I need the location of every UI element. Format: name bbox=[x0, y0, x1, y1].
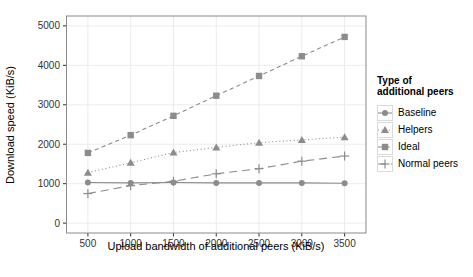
legend-item-label: Ideal bbox=[398, 141, 420, 152]
legend-item-normal-peers: Normal peers bbox=[377, 155, 458, 172]
legend-title: Type of additional peers bbox=[377, 75, 458, 97]
y-tick-label: 0 bbox=[54, 218, 60, 229]
y-tick-label: 1000 bbox=[38, 178, 61, 189]
legend-key-plus-icon bbox=[377, 156, 393, 172]
x-axis-label: Upload bandwidth of additional peers (Ki… bbox=[66, 240, 366, 252]
y-tick-label: 2000 bbox=[38, 139, 61, 150]
y-tick-label: 3000 bbox=[38, 99, 61, 110]
legend-item-helpers: Helpers bbox=[377, 121, 458, 138]
y-axis-label: Download speed (KiB/s) bbox=[3, 16, 17, 233]
y-tick-label: 4000 bbox=[38, 60, 61, 71]
legend-key-square-icon bbox=[377, 139, 393, 155]
legend-title-line2: additional peers bbox=[377, 86, 458, 97]
legend: Type of additional peers BaselineHelpers… bbox=[377, 75, 458, 172]
legend-item-label: Helpers bbox=[398, 124, 432, 135]
legend-item-baseline: Baseline bbox=[377, 104, 458, 121]
legend-key-circle-icon bbox=[377, 105, 393, 121]
legend-key-triangle-icon bbox=[377, 122, 393, 138]
legend-item-label: Normal peers bbox=[398, 158, 458, 169]
legend-title-line1: Type of bbox=[377, 75, 458, 86]
chart-figure: 0100020003000400050005001000150020002500… bbox=[0, 0, 473, 277]
legend-item-label: Baseline bbox=[398, 107, 436, 118]
legend-items: BaselineHelpersIdealNormal peers bbox=[377, 104, 458, 172]
legend-item-ideal: Ideal bbox=[377, 138, 458, 155]
y-tick-label: 5000 bbox=[38, 20, 61, 31]
